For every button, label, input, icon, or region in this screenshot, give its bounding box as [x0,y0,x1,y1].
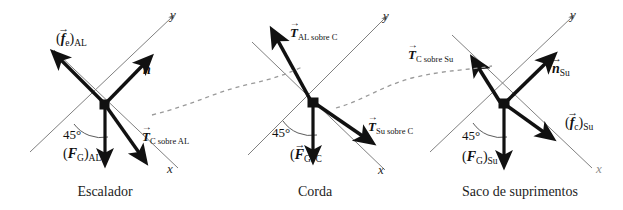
axis-x-line-1 [54,50,178,168]
origin-dot-1 [100,100,110,110]
panel-escalador [30,17,178,168]
vector-normal-bag [506,62,547,102]
panel-saco [430,17,592,168]
vector-tension-bag-on-rope [316,104,364,137]
dashed-link-2-3 [336,66,492,108]
angle-arc-3 [473,123,507,138]
caption-escalador: Escalador [20,184,190,200]
vector-tension-rope-on-climber [106,106,140,154]
vector-friction-bag [506,105,545,133]
axis-y-line-1 [30,17,172,152]
caption-corda: Corda [245,184,385,200]
origin-dot-2 [308,98,319,108]
free-body-diagram-figure: (→fe)AL →n →TC sobre AL (→FG)AL 45° y x … [0,0,623,210]
origin-dot-3 [499,99,510,109]
axis-y-line-2 [248,18,385,155]
angle-arc-1 [74,124,108,138]
diagram-canvas [0,0,623,210]
vector-friction-climber [60,59,104,103]
axis-y-line-3 [430,17,572,152]
panel-corda [248,18,385,170]
vector-tension-climber-on-rope [277,39,311,101]
dashed-link-1-2 [152,66,304,115]
vector-normal-climber [106,64,144,103]
caption-saco-de-suprimentos: Saco de suprimentos [420,184,620,200]
vector-tension-rope-on-bag [478,67,500,102]
axis-x-line-3 [452,35,592,168]
